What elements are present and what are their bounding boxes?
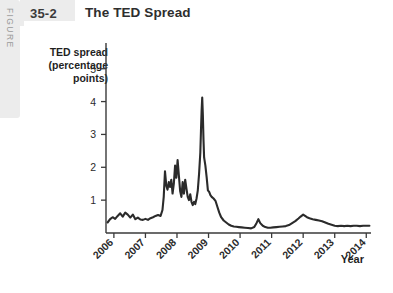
x-tick-label-2007: 2007 bbox=[122, 236, 147, 261]
ted-spread-chart: 12345 2006200720082009201020112012201320… bbox=[24, 21, 377, 288]
y-tick-label-1: 1 bbox=[90, 194, 96, 206]
figure-number: 35-2 bbox=[30, 6, 57, 21]
y-tick-label-2: 2 bbox=[90, 161, 96, 173]
y-tick-label-4: 4 bbox=[90, 96, 96, 108]
ted-spread-line bbox=[108, 98, 370, 229]
figure-side-tab: FIGURE bbox=[0, 0, 20, 118]
y-tick-label-3: 3 bbox=[90, 128, 96, 140]
x-tick-label-2008: 2008 bbox=[153, 236, 178, 261]
figure-side-label: FIGURE bbox=[5, 8, 15, 49]
chart-svg: 12345 2006200720082009201020112012201320… bbox=[24, 21, 377, 288]
figure-panel: TED spread (percentage points) 12345 200… bbox=[24, 21, 377, 288]
y-tick-label-5: 5 bbox=[90, 63, 96, 75]
y-tick-group: 12345 bbox=[90, 63, 106, 206]
x-tick-label-2009: 2009 bbox=[185, 236, 210, 261]
x-tick-label-2010: 2010 bbox=[216, 236, 241, 261]
figure-title: The TED Spread bbox=[85, 5, 191, 20]
x-axis-title: Year bbox=[264, 253, 364, 265]
x-tick-label-2006: 2006 bbox=[90, 236, 115, 261]
